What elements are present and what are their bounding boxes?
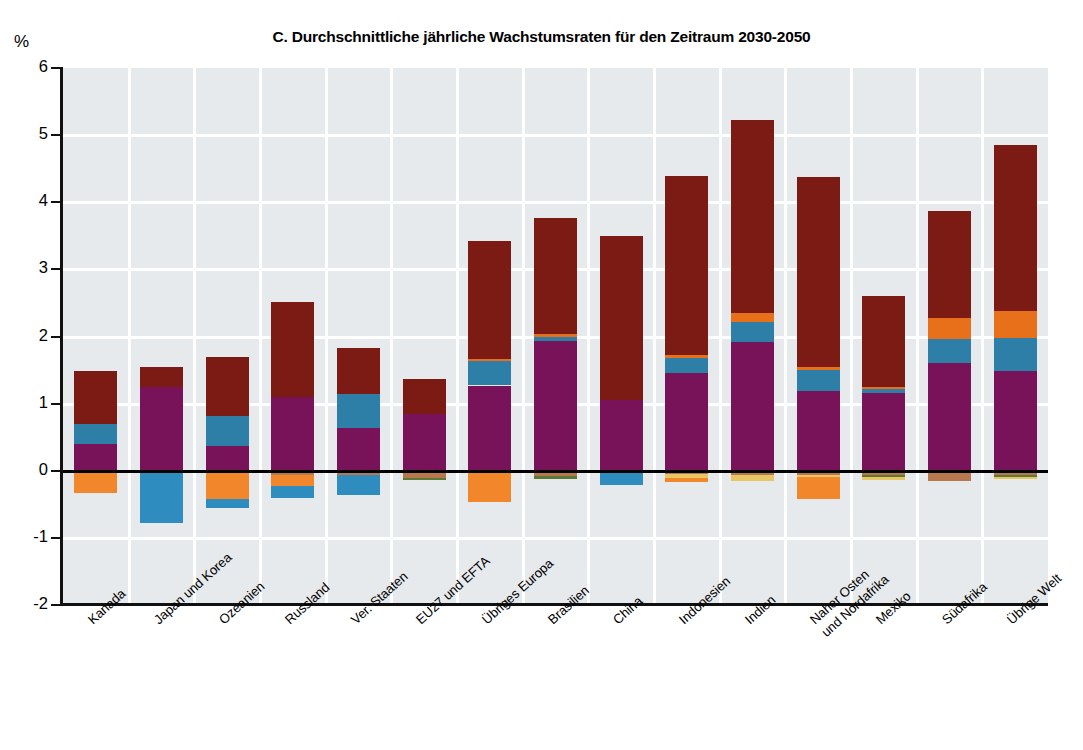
bar-stack[interactable] (206, 68, 249, 605)
bar-segment-blue (337, 394, 380, 428)
gridline-vertical (390, 68, 393, 605)
bar-stack[interactable] (928, 68, 971, 605)
bar-stack[interactable] (797, 68, 840, 605)
gridline-vertical (784, 68, 787, 605)
bar-segment-dark-red (797, 177, 840, 366)
bar-segment-dark-red (534, 218, 577, 334)
bar-stack[interactable] (600, 68, 643, 605)
bar-segment-dark-red (74, 371, 117, 425)
bar-segment-blue (731, 322, 774, 342)
bar-segment-neg-blue (140, 471, 183, 523)
bar-segment-blue (74, 424, 117, 443)
bar-segment-purple (731, 342, 774, 471)
gridline-vertical (259, 68, 262, 605)
y-tick-label: 1 (14, 393, 48, 412)
bar-segment-purple (337, 428, 380, 471)
bar-segment-blue (665, 358, 708, 373)
bar-segment-purple (534, 341, 577, 471)
bar-segment-neg-green (403, 478, 446, 480)
bar-stack[interactable] (403, 68, 446, 605)
bar-segment-orange (797, 367, 840, 370)
bar-segment-purple (994, 371, 1037, 470)
bar-stack[interactable] (731, 68, 774, 605)
gridline-vertical (456, 68, 459, 605)
bar-stack[interactable] (337, 68, 380, 605)
bar-segment-neg-blue (600, 471, 643, 485)
bar-segment-orange (665, 355, 708, 358)
bar-segment-dark-red (994, 145, 1037, 311)
bar-stack[interactable] (74, 68, 117, 605)
bar-segment-purple (600, 400, 643, 470)
bar-segment-neg-orange (665, 478, 708, 482)
y-tick-label: 6 (14, 57, 48, 76)
bar-segment-neg-orange (797, 477, 840, 498)
bar-segment-purple (206, 446, 249, 471)
bar-segment-dark-red (665, 176, 708, 355)
bar-segment-neg-orange (468, 471, 511, 502)
bar-segment-orange (862, 387, 905, 389)
bar-segment-dark-red (468, 241, 511, 359)
bar-segment-blue (468, 361, 511, 385)
y-tick-label: -1 (14, 527, 48, 546)
y-tick-label: -2 (14, 594, 48, 613)
y-axis-tick (51, 201, 61, 203)
y-tick-label: 4 (14, 191, 48, 210)
gridline-vertical (325, 68, 328, 605)
y-tick-label: 0 (14, 460, 48, 479)
chart-title: C. Durchschnittliche jährliche Wachstums… (0, 28, 1083, 46)
y-axis-tick (51, 604, 61, 606)
bar-segment-orange (731, 313, 774, 322)
bar-segment-purple (862, 393, 905, 471)
bar-segment-neg-yellow (862, 477, 905, 480)
bar-segment-blue (206, 416, 249, 446)
bar-segment-blue (994, 338, 1037, 372)
bar-stack[interactable] (665, 68, 708, 605)
bar-segment-orange (468, 359, 511, 361)
bar-segment-purple (271, 397, 314, 471)
y-axis-tick (51, 268, 61, 270)
bar-segment-blue (928, 339, 971, 363)
bar-stack[interactable] (862, 68, 905, 605)
bar-stack[interactable] (271, 68, 314, 605)
bar-stack[interactable] (534, 68, 577, 605)
bar-segment-neg-green (534, 476, 577, 479)
bar-segment-blue (797, 370, 840, 391)
bar-segment-neg-blue (271, 486, 314, 497)
gridline-vertical (981, 68, 984, 605)
bar-segment-neg-orange (271, 475, 314, 486)
bar-segment-dark-red (928, 211, 971, 318)
bar-segment-neg-blue (206, 499, 249, 508)
bar-segment-neg-blue (337, 475, 380, 494)
gridline-vertical (522, 68, 525, 605)
bar-segment-neg-orange (206, 471, 249, 499)
plot-area (63, 68, 1048, 605)
bar-segment-dark-red (271, 302, 314, 397)
bar-stack[interactable] (994, 68, 1037, 605)
chart-page: % C. Durchschnittliche jährliche Wachstu… (0, 0, 1083, 750)
bar-segment-neg-orange (74, 471, 117, 493)
bar-segment-dark-red (731, 120, 774, 313)
bar-segment-dark-red (206, 357, 249, 416)
y-axis-tick (51, 403, 61, 405)
y-tick-label: 2 (14, 326, 48, 345)
y-tick-label: 3 (14, 258, 48, 277)
bar-segment-blue (862, 389, 905, 393)
zero-baseline (63, 470, 1048, 473)
bar-segment-dark-red (337, 348, 380, 394)
bar-segment-dark-red (862, 296, 905, 387)
y-axis-tick (51, 336, 61, 338)
bar-segment-purple (665, 373, 708, 471)
bar-segment-dark-red (600, 236, 643, 400)
bar-stack[interactable] (468, 68, 511, 605)
y-axis-tick (51, 470, 61, 472)
bar-segment-orange (994, 311, 1037, 338)
gridline-vertical (193, 68, 196, 605)
gridline-vertical (128, 68, 131, 605)
bar-stack[interactable] (140, 68, 183, 605)
bar-segment-dark-red (140, 367, 183, 387)
gridline-vertical (916, 68, 919, 605)
y-axis-tick (51, 537, 61, 539)
bar-segment-purple (403, 414, 446, 470)
y-axis-tick (51, 67, 61, 69)
y-axis-tick (51, 134, 61, 136)
